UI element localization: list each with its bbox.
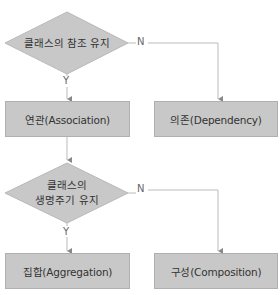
outcome-association: 연관(Association)	[5, 101, 130, 137]
decision-1-no-label: N	[137, 36, 144, 47]
decision-2-yes-label: Y	[63, 226, 69, 237]
decision-1-label: 클래스의 참조 유지	[5, 33, 129, 53]
outcome-dependency: 의존(Dependency)	[154, 101, 278, 137]
decision-1-yes-label: Y	[63, 75, 69, 86]
outcome-composition: 구성(Composition)	[154, 253, 278, 289]
decision-2-label: 클래스의 생명주기 유지	[5, 178, 129, 208]
outcome-aggregation: 집합(Aggregation)	[5, 253, 130, 289]
decision-2-no-label: N	[137, 183, 144, 194]
decision-2-label-line1: 클래스의	[47, 178, 87, 193]
decision-2-label-line2: 생명주기 유지	[35, 193, 98, 208]
